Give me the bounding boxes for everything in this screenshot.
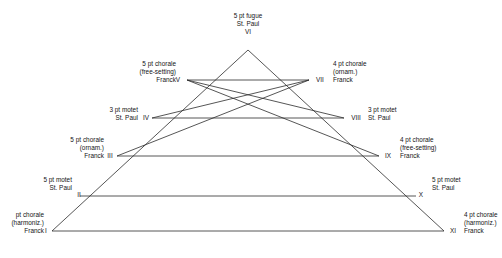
apex-label-line-2: St. Paul xyxy=(200,20,296,28)
label-VII-line-1: 4 pt chorale xyxy=(333,60,417,68)
numeral-I: I xyxy=(42,227,50,235)
label-I-line-1: pt chorale xyxy=(0,211,44,219)
label-IV-line-1: 3 pt motet xyxy=(74,106,138,114)
label-IV: 3 pt motet St. Paul xyxy=(74,106,138,122)
label-VII-line-2: (ornam.) xyxy=(333,68,417,76)
label-I-line-3: Franck xyxy=(0,227,44,235)
label-II-line-2: St. Paul xyxy=(8,184,72,192)
label-XI-line-3: Franck xyxy=(464,227,502,235)
label-V: 5 pt chorale (free-setting) Franck xyxy=(104,60,176,84)
label-X-line-2: St. Paul xyxy=(432,184,496,192)
label-XI-line-1: 4 pt chorale xyxy=(464,211,502,219)
numeral-IV: IV xyxy=(140,114,152,122)
numeral-X: X xyxy=(416,191,426,199)
label-V-line-3: Franck xyxy=(104,76,176,84)
label-IV-line-2: St. Paul xyxy=(74,114,138,122)
label-X: 5 pt motet St. Paul xyxy=(432,176,496,192)
apex-label-line-1: 5 pt fugue xyxy=(200,12,296,20)
label-VII-line-3: Franck xyxy=(333,76,417,84)
diagonal-V-to-VIII xyxy=(187,80,344,118)
label-VIII-line-2: St. Paul xyxy=(368,114,448,122)
label-V-line-1: 5 pt chorale xyxy=(104,60,176,68)
label-VIII: 3 pt motet St. Paul xyxy=(368,106,448,122)
label-III-line-1: 5 pt chorale xyxy=(36,136,104,144)
label-VII: 4 pt chorale (ornam.) Franck xyxy=(333,60,417,84)
label-III-line-3: Franck xyxy=(36,152,104,160)
numeral-III: III xyxy=(104,152,116,160)
label-IX-line-3: Franck xyxy=(400,152,484,160)
label-II: 5 pt motet St. Paul xyxy=(8,176,72,192)
label-I-line-2: (harmoniz.) xyxy=(0,219,44,227)
numeral-II: II xyxy=(74,191,84,199)
label-XI: 4 pt chorale (harmoniz.) Franck xyxy=(464,211,502,235)
label-V-line-2: (free-setting) xyxy=(104,68,176,76)
label-III: 5 pt chorale (ornam.) Franck xyxy=(36,136,104,160)
label-I: pt chorale (harmoniz.) Franck xyxy=(0,211,44,235)
apex-label-VI: 5 pt fugue St. Paul VI xyxy=(200,12,296,36)
label-III-line-2: (ornam.) xyxy=(36,144,104,152)
apex-numeral-VI: VI xyxy=(200,28,296,36)
numeral-VIII: VIII xyxy=(348,114,364,122)
numeral-VII: VII xyxy=(313,76,327,84)
diagonal-VII-to-IV xyxy=(152,80,309,118)
label-XI-line-2: (harmoniz.) xyxy=(464,219,502,227)
label-IX-line-1: 4 pt chorale xyxy=(400,136,484,144)
label-VIII-line-1: 3 pt motet xyxy=(368,106,448,114)
label-IX: 4 pt chorale (free-setting) Franck xyxy=(400,136,484,160)
numeral-V: V xyxy=(172,76,184,84)
label-X-line-1: 5 pt motet xyxy=(432,176,496,184)
numeral-XI: XI xyxy=(447,227,459,235)
label-IX-line-2: (free-setting) xyxy=(400,144,484,152)
numeral-IX: IX xyxy=(382,152,394,160)
label-II-line-1: 5 pt motet xyxy=(8,176,72,184)
